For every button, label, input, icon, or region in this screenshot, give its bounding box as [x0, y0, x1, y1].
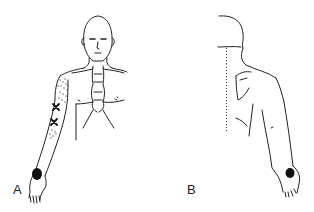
head-outline — [84, 16, 113, 61]
x-mark-lower — [51, 119, 57, 125]
panel-a-figure — [29, 16, 127, 203]
panel-label-a: A — [13, 182, 22, 197]
shaded-region-a — [32, 168, 42, 180]
dotted-spine-line — [226, 48, 227, 131]
figure-canvas — [0, 0, 314, 212]
shaded-region-b — [286, 168, 295, 178]
panel-label-b: B — [187, 182, 196, 197]
